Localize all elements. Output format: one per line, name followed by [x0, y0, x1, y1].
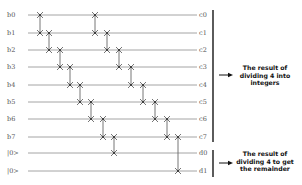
wire-input-label: |0>	[7, 149, 19, 157]
swap-gate	[92, 12, 98, 36]
annotation-line: dividing 4 to get	[228, 158, 302, 166]
swap-gate	[67, 64, 73, 88]
wire-output-label: c6	[199, 115, 207, 123]
swap-gate	[175, 134, 181, 174]
wire-output-label: c3	[199, 63, 207, 71]
wire-output-label: c2	[199, 46, 207, 54]
annotation-line: The result of	[228, 64, 302, 72]
annotation-line: integers	[228, 79, 302, 87]
swap-gate	[37, 12, 43, 36]
wire-input-label: b3	[7, 63, 15, 71]
wire-input-label: b2	[7, 46, 15, 54]
annotation-integer-result: The result ofdividing 4 intointegers	[228, 64, 302, 87]
wire-output-label: d0	[199, 149, 207, 157]
wire-output-label: c0	[199, 11, 207, 19]
wire-input-label: b4	[7, 81, 15, 89]
wire-input-label: b0	[7, 11, 15, 19]
wire-input-label: b6	[7, 115, 15, 123]
wire-output-label: c1	[199, 29, 207, 37]
wire-input-label: b1	[7, 29, 15, 37]
wire-output-label: c5	[199, 98, 207, 106]
wire-output-label: c7	[199, 133, 207, 141]
swap-gate	[128, 64, 134, 88]
swap-gate	[164, 116, 170, 140]
wire-input-label: b5	[7, 98, 15, 106]
wire-input-label: b7	[7, 133, 15, 141]
wire-output-label: c4	[199, 81, 207, 89]
wire-output-label: d1	[199, 167, 207, 175]
wire-input-label: |0>	[7, 167, 19, 175]
annotation-line: dividing 4 into	[228, 72, 302, 80]
annotation-line: The result of	[228, 150, 302, 158]
annotation-line: the remainder	[228, 165, 302, 173]
annotation-remainder-result: The result ofdividing 4 to getthe remain…	[228, 150, 302, 173]
swap-gate	[100, 116, 106, 140]
